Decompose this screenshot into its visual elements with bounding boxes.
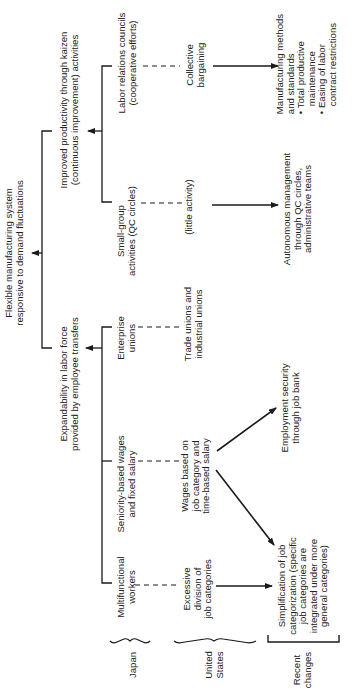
us-brace [174, 639, 256, 643]
us-wages-job-category: Wages based on job category and time-bas… [180, 438, 212, 514]
recent-autonomous-management: Autonomous management through QC circles… [282, 153, 314, 266]
row-label-japan: Japan [128, 652, 139, 678]
japan-labor-councils: Labor relations councils (cooperative ef… [117, 13, 138, 114]
expandability-bracket [102, 327, 112, 583]
us-excessive-division: Excessive division of job categories [182, 559, 214, 619]
recent-changes-bracket [268, 635, 339, 642]
productivity-bracket [102, 66, 112, 202]
japan-small-group: Small-group activities (QC circles) [116, 186, 137, 276]
us-little-activity: (little activity) [184, 179, 195, 234]
top-bracket [42, 131, 52, 348]
recent-simplification: Simplification of job categorization (sp… [277, 537, 330, 635]
us-collective-bargaining: Collective bargaining [185, 43, 206, 88]
diagram-canvas: Flexible manufacturing system responsive… [0, 0, 363, 692]
japan-brace [110, 639, 150, 643]
recent-manufacturing-methods: Manufacturing methods and standards • To… [275, 14, 339, 114]
japan-enterprise-unions: Enterprise unions [116, 316, 137, 360]
japan-seniority-wages: Seniority-based wages and fixed salary [116, 435, 137, 532]
us-trade-unions: Trade unions and industrial unions [183, 287, 204, 361]
branch-productivity: Improved productivity through kaizen (co… [59, 32, 80, 189]
diagram-title: Flexible manufacturing system responsive… [4, 180, 25, 326]
japan-multifunctional: Multifunctional workers [116, 556, 137, 617]
recent-employment-security: Employment security through job bank [280, 363, 301, 452]
row-label-recent-changes: Recent changes [292, 652, 313, 688]
row-label-united-states: United States [204, 651, 225, 679]
branch-expandability: Expandability in labor force provided by… [59, 317, 80, 451]
